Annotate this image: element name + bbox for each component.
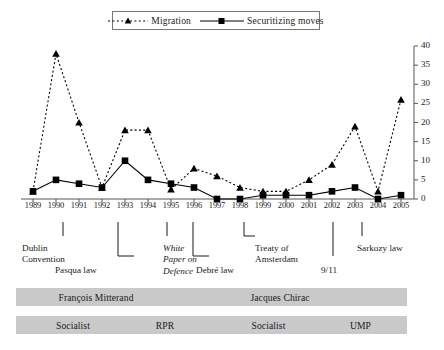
x-axis-tick-label: 2005	[387, 201, 415, 210]
data-point-marker	[328, 161, 336, 168]
party-bar: UMP	[315, 316, 407, 334]
y-axis-tick-label: 35	[421, 59, 430, 69]
party-bar-row: SocialistRPRSocialistUMP	[0, 316, 444, 334]
party-bar-label: UMP	[350, 320, 371, 331]
data-point-marker	[305, 176, 313, 183]
data-point-marker	[76, 180, 83, 187]
data-point-marker	[283, 192, 290, 199]
annotation-label: Treaty of Amsterdam	[255, 243, 298, 266]
x-axis-labels: 1989199019911992199319941995199619971998…	[0, 201, 444, 217]
chart-container: Migration Securitizing moves 05101520253…	[0, 0, 444, 350]
y-axis-tick-label: 20	[421, 117, 430, 127]
series-layer	[29, 50, 405, 202]
data-point-marker	[190, 165, 198, 172]
data-point-marker	[374, 188, 382, 195]
y-axis-tick-label: 15	[421, 136, 430, 146]
data-point-marker	[53, 177, 60, 184]
y-axis-tick-label: 30	[421, 78, 430, 88]
data-point-marker	[144, 127, 152, 134]
data-point-marker	[122, 157, 129, 164]
data-point-marker	[145, 177, 152, 184]
president-bar: Jacques Chirac	[154, 288, 407, 306]
data-point-marker	[30, 188, 37, 195]
data-point-marker	[75, 119, 83, 126]
party-bar-label: RPR	[156, 320, 174, 331]
data-point-marker	[168, 180, 175, 187]
president-bar-label: Jacques Chirac	[250, 292, 309, 303]
series-line-migration	[33, 54, 401, 192]
series-line-securitizing-moves	[33, 161, 401, 199]
annotation-label: Dublin Convention	[22, 243, 65, 266]
data-point-marker	[306, 192, 313, 199]
data-point-marker	[52, 50, 60, 57]
annotation-label: Sarkozy law	[357, 243, 403, 254]
data-point-marker	[352, 184, 359, 191]
data-point-marker	[191, 184, 198, 191]
annotation-labels: Dublin ConventionPasqua lawWhite Paper o…	[0, 216, 444, 278]
data-point-marker	[260, 192, 267, 199]
y-axis-tick-label: 5	[421, 174, 426, 184]
annotation-label: 9/11	[321, 265, 337, 276]
y-axis-tick-label: 10	[421, 155, 430, 165]
annotation-label: Debré law	[196, 265, 234, 276]
president-bar: François Mitterand	[16, 288, 177, 306]
data-point-marker	[351, 123, 359, 130]
y-axis-tick-label: 25	[421, 97, 430, 107]
data-point-marker	[398, 192, 405, 199]
y-axis-tick-label: 40	[421, 40, 430, 50]
data-point-marker	[329, 188, 336, 195]
data-point-marker	[397, 96, 405, 103]
data-point-marker	[236, 184, 244, 191]
party-bar-label: Socialist	[56, 320, 90, 331]
president-bar-row: François MitterandJacques Chirac	[0, 288, 444, 306]
plot-area	[0, 0, 444, 216]
annotation-label: Pasqua law	[55, 265, 97, 276]
annotation-label: White Paper on Defence	[163, 243, 197, 277]
data-point-marker	[99, 184, 106, 191]
data-point-marker	[213, 172, 221, 179]
party-bar-label: Socialist	[252, 320, 286, 331]
president-bar-label: François Mitterand	[58, 292, 133, 303]
